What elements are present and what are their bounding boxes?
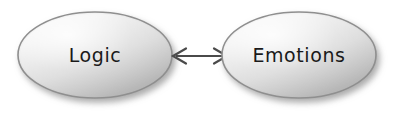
node-logic[interactable]: Logic: [18, 12, 172, 98]
double-headed-arrow-connector[interactable]: [173, 49, 227, 64]
emotions-node-label: Emotions: [252, 44, 345, 66]
node-emotions[interactable]: Emotions: [222, 12, 376, 98]
logic-node-label: Logic: [69, 44, 122, 66]
diagram-canvas: Logic Emotions: [0, 0, 396, 113]
relationship-diagram: Logic Emotions: [0, 0, 396, 113]
